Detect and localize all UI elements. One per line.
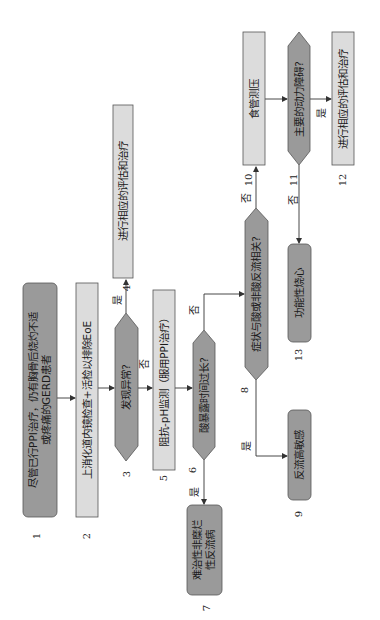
node-5-impedance-ph: 阻抗-pH监测（服用PPI治疗） 5 (153, 290, 175, 481)
node-2-text: 上消化道内镜检查+活检以排除EoE (81, 321, 93, 480)
node-8-number: 8 (239, 387, 250, 393)
node-8-yes-label: 是 (241, 441, 252, 451)
node-9-reflux-hypersensitivity: 反流高敏感 9 (288, 410, 311, 517)
node-7-text-line1: 难治性非糜烂 (191, 520, 203, 580)
node-13-functional-heartburn: 功能性烧心 13 (288, 244, 311, 361)
node-10-number: 10 (243, 174, 254, 187)
node-10-manometry: 食管测压 10 (243, 32, 265, 186)
node-12-evaluate: 进行相应的评估和治疗 12 (332, 32, 354, 186)
node-4-text: 进行相应的评估和治疗 (117, 140, 129, 241)
node-11-decision: 主要的动力障碍? 11 是 否 (288, 32, 327, 205)
node-13-number: 13 (293, 349, 304, 362)
node-1-number: 1 (31, 533, 42, 539)
node-6-yes-label: 是 (189, 487, 200, 497)
node-8-no-label: 否 (241, 193, 252, 203)
node-3-yes-label: 是 (112, 295, 123, 305)
node-3-no-label: 否 (139, 359, 150, 369)
node-2-number: 2 (81, 533, 92, 539)
node-1-text-line2: 或疼痛的GERD患者 (40, 355, 52, 445)
node-11-no-label: 否 (288, 195, 299, 205)
node-3-text: 发现异常? (120, 364, 132, 410)
node-12-number: 12 (337, 174, 348, 187)
node-2-endoscopy: 上消化道内镜检查+活检以排除EoE 2 (76, 283, 98, 539)
node-10-text: 食管测压 (248, 78, 260, 119)
node-6-decision: 酸暴露时间过长? 6 是 否 (187, 305, 215, 497)
node-8-decision: 症状与酸或非酸反流相关? 8 是 否 (239, 193, 268, 451)
node-3-number: 3 (121, 471, 132, 477)
node-9-number: 9 (293, 511, 304, 517)
node-5-text: 阻抗-pH监测（服用PPI治疗） (158, 313, 170, 447)
node-3-decision: 发现异常? 3 是 否 (112, 295, 150, 477)
node-8-text: 症状与酸或非酸反流相关? (250, 236, 262, 352)
node-5-number: 5 (158, 475, 169, 481)
arrow-8-9 (256, 380, 287, 456)
node-4-number-visible: 4 (121, 285, 132, 291)
node-9-text: 反流高敏感 (293, 429, 305, 480)
flowchart-canvas: 尽管已行PPI治疗，仍有胸骨后烧灼不适 或疼痛的GERD患者 1 上消化道内镜检… (0, 0, 380, 620)
node-11-yes-label: 是 (316, 108, 327, 118)
node-4-evaluate: 进行相应的评估和治疗 4 4 (113, 105, 133, 291)
arrow-6-8 (204, 294, 244, 330)
node-7-refractory-nerd: 难治性非糜烂 性反流病 7 (187, 505, 222, 611)
node-6-number: 6 (187, 467, 198, 473)
node-12-text: 进行相应的评估和治疗 (337, 48, 349, 149)
node-1-text-line1: 尽管已行PPI治疗，仍有胸骨后烧灼不适 (27, 311, 39, 488)
node-1-start: 尽管已行PPI治疗，仍有胸骨后烧灼不适 或疼痛的GERD患者 1 (23, 283, 57, 539)
node-6-no-label: 否 (189, 305, 200, 315)
node-7-number: 7 (201, 605, 212, 611)
node-13-text: 功能性烧心 (293, 267, 305, 318)
node-6-text: 酸暴露时间过长? (198, 357, 210, 433)
node-7-text-line2: 性反流病 (204, 529, 216, 570)
node-11-number: 11 (288, 174, 299, 187)
node-11-text: 主要的动力障碍? (293, 61, 305, 137)
